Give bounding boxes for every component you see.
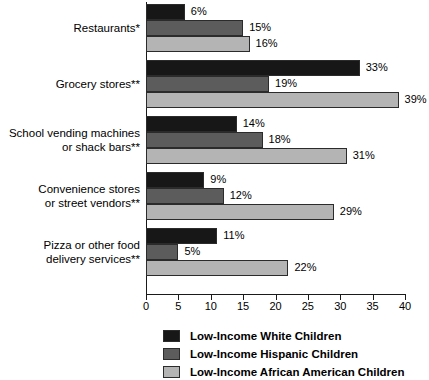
category-label: Grocery stores** bbox=[0, 77, 140, 91]
legend-swatch bbox=[163, 330, 180, 342]
bar[interactable] bbox=[146, 20, 243, 36]
bar[interactable] bbox=[146, 116, 237, 132]
bar[interactable] bbox=[146, 36, 250, 52]
bar[interactable] bbox=[146, 204, 334, 220]
chart-legend: Low-Income White ChildrenLow-Income Hisp… bbox=[163, 327, 405, 380]
bar[interactable] bbox=[146, 60, 360, 76]
category-label: Restaurants* bbox=[0, 21, 140, 35]
category-label-line: Grocery stores** bbox=[0, 77, 140, 91]
bar[interactable] bbox=[146, 76, 269, 92]
bar-value-label: 18% bbox=[269, 133, 291, 145]
bar-value-label: 5% bbox=[184, 245, 200, 257]
category-label: Pizza or other fooddelivery services** bbox=[0, 238, 140, 266]
bar-value-label: 29% bbox=[340, 205, 362, 217]
legend-item[interactable]: Low-Income White Children bbox=[163, 327, 405, 344]
bar[interactable] bbox=[146, 188, 224, 204]
bar-value-label: 22% bbox=[294, 261, 316, 273]
x-axis-tick-label: 40 bbox=[390, 300, 420, 312]
bar[interactable] bbox=[146, 244, 178, 260]
legend-item[interactable]: Low-Income Hispanic Children bbox=[163, 345, 405, 362]
x-axis-tick-label: 20 bbox=[261, 300, 291, 312]
bar[interactable] bbox=[146, 4, 185, 20]
bar[interactable] bbox=[146, 92, 399, 108]
bar-value-label: 14% bbox=[243, 117, 265, 129]
category-label-line: Convenience stores bbox=[0, 182, 140, 196]
x-axis-tick-label: 0 bbox=[131, 300, 161, 312]
x-axis-tick-label: 30 bbox=[325, 300, 355, 312]
bar[interactable] bbox=[146, 228, 217, 244]
x-axis-tick-label: 5 bbox=[163, 300, 193, 312]
bar-value-label: 11% bbox=[223, 229, 244, 241]
bar-value-label: 19% bbox=[275, 77, 297, 89]
bar-value-label: 39% bbox=[405, 93, 427, 105]
category-label: Convenience storesor street vendors** bbox=[0, 182, 140, 210]
bar-value-label: 16% bbox=[256, 37, 278, 49]
category-label-line: or street vendors** bbox=[0, 196, 140, 210]
bar-value-label: 33% bbox=[366, 61, 388, 73]
category-label-line: School vending machines bbox=[0, 126, 140, 140]
bar[interactable] bbox=[146, 148, 347, 164]
x-axis-tick-label: 35 bbox=[358, 300, 388, 312]
bar-value-label: 12% bbox=[230, 189, 252, 201]
legend-label: Low-Income African American Children bbox=[190, 366, 405, 378]
bar-chart: 0510152025303540 6%15%16%33%19%39%14%18%… bbox=[0, 0, 429, 380]
bar-value-label: 31% bbox=[353, 149, 375, 161]
category-label-line: delivery services** bbox=[0, 252, 140, 266]
x-axis-tick-label: 10 bbox=[196, 300, 226, 312]
bar-value-label: 15% bbox=[249, 21, 271, 33]
bar[interactable] bbox=[146, 260, 288, 276]
bar[interactable] bbox=[146, 172, 204, 188]
legend-swatch bbox=[163, 348, 180, 360]
legend-label: Low-Income Hispanic Children bbox=[190, 348, 358, 360]
category-label-line: or shack bars** bbox=[0, 140, 140, 154]
bar-value-label: 9% bbox=[210, 173, 226, 185]
x-axis-tick-label: 25 bbox=[293, 300, 323, 312]
legend-item[interactable]: Low-Income African American Children bbox=[163, 363, 405, 380]
category-label: School vending machinesor shack bars** bbox=[0, 126, 140, 154]
legend-swatch bbox=[163, 366, 180, 378]
x-axis-tick-label: 15 bbox=[228, 300, 258, 312]
category-label-line: Restaurants* bbox=[0, 21, 140, 35]
bar[interactable] bbox=[146, 132, 263, 148]
bar-value-label: 6% bbox=[191, 5, 207, 17]
category-label-line: Pizza or other food bbox=[0, 238, 140, 252]
legend-label: Low-Income White Children bbox=[190, 330, 341, 342]
